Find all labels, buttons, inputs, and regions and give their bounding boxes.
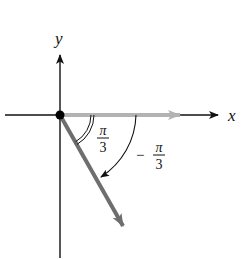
reference-angle-denominator: 3: [100, 140, 107, 155]
directed-angle-label: − π 3: [136, 140, 165, 172]
directed-angle-sign: −: [136, 147, 144, 163]
directed-angle-denominator: 3: [156, 157, 163, 172]
y-axis-label: y: [53, 29, 63, 48]
reference-angle-numerator: π: [99, 123, 107, 138]
reference-angle-label: π 3: [97, 123, 109, 155]
reference-angle-double-arc: [76, 115, 95, 144]
origin-point: [56, 111, 65, 120]
terminal-side-ray: [60, 115, 123, 226]
x-axis-label: x: [227, 106, 236, 125]
angle-diagram: y x π 3 − π 3: [0, 0, 248, 259]
directed-angle-numerator: π: [155, 140, 163, 155]
